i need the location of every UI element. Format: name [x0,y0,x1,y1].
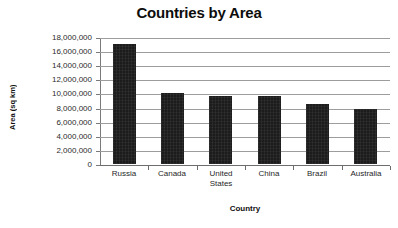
y-axis-tick-label: 12,000,000 [52,76,92,84]
bar-china[interactable] [258,96,281,164]
bar-brazil[interactable] [306,104,329,164]
gridline [100,94,390,95]
x-axis-tick-label: Australia [342,169,390,179]
y-axis-tick-label: 8,000,000 [56,105,92,113]
x-axis-tick-mark [390,166,391,170]
gridline [100,137,390,138]
y-axis-tick-label: 4,000,000 [56,133,92,141]
gridline [100,123,390,124]
y-axis-tick-label: 16,000,000 [52,48,92,56]
gridline [100,38,390,39]
y-axis-tick-label: 6,000,000 [56,119,92,127]
y-axis-tick-mark [96,94,100,95]
gridline [100,52,390,53]
chart-title: Countries by Area [0,4,398,21]
gridline [100,109,390,110]
y-axis-tick-mark [96,137,100,138]
y-axis-tick-mark [96,123,100,124]
y-axis-tick-label: 2,000,000 [56,147,92,155]
x-axis-tick-label: Brazil [293,169,341,179]
y-axis-tick-labels: 18,000,00016,000,00014,000,00012,000,000… [30,38,96,166]
y-axis-tick-mark [96,38,100,39]
y-axis-tick-label: 0 [88,161,92,169]
plot-area [100,38,390,165]
y-axis-tick-label: 14,000,000 [52,62,92,70]
gridline [100,151,390,152]
y-axis-tick-mark [96,52,100,53]
x-axis-title: Country [100,204,390,213]
chart-container: Countries by Area Area (sq km) 18,000,00… [0,0,398,228]
y-axis-tick-mark [96,66,100,67]
bar-united-states[interactable] [209,96,232,164]
y-axis-tick-mark [96,165,100,166]
y-axis-tick-label: 18,000,000 [52,34,92,42]
x-axis-tick-label: Russia [100,169,148,179]
y-axis-title: Area (sq km) [6,62,18,152]
x-axis-tick-label: China [245,169,293,179]
y-axis-line [100,38,101,166]
gridline [100,66,390,67]
bar-australia[interactable] [354,109,377,164]
x-axis-tick-labels: RussiaCanadaUnited StatesChinaBrazilAust… [100,169,390,195]
y-axis-tick-label: 10,000,000 [52,90,92,98]
bar-canada[interactable] [161,93,184,164]
bar-russia[interactable] [113,44,136,164]
y-axis-tick-mark [96,151,100,152]
y-axis-tick-mark [96,80,100,81]
x-axis-tick-label: Canada [148,169,196,179]
gridline [100,80,390,81]
y-axis-tick-mark [96,109,100,110]
x-axis-tick-label: United States [197,169,245,189]
